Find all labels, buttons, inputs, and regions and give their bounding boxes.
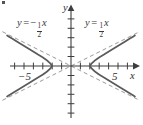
y-axis-name-label: y: [63, 2, 68, 13]
y-axis-arrowhead: [68, 5, 75, 12]
x-axis-name-label: x: [130, 70, 135, 81]
x-axis-tick-label-positive-five: 5: [112, 70, 118, 82]
coordinate-plot: [0, 0, 143, 125]
x-axis-tick-label-negative-five: −5: [18, 70, 31, 82]
x-axis-arrowhead: [133, 63, 140, 70]
hyperbola-figure: y=−12x y=12x −5 5 x y: [0, 0, 143, 125]
